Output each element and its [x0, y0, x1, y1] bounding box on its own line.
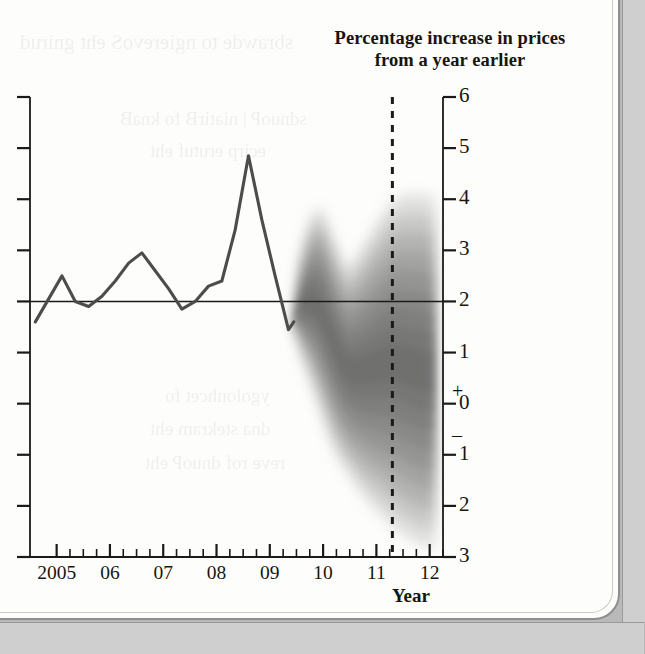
fan-chart-plot	[0, 0, 620, 620]
y-axis-tick-label: 0	[459, 390, 489, 415]
y-axis-tick-label: 1	[459, 441, 489, 466]
y-axis-plus-sign: +	[452, 381, 463, 401]
fan-chart-shading	[294, 194, 435, 549]
y-axis-tick-label: 2	[459, 492, 489, 517]
x-axis-title: Year	[392, 585, 430, 607]
page-right-gutter	[622, 0, 645, 622]
x-axis-tick-label: 12	[398, 562, 462, 584]
y-axis-tick-label: 2	[459, 287, 489, 312]
y-axis-tick-label: 6	[459, 83, 489, 108]
y-axis-tick-label: 4	[459, 185, 489, 210]
page-bottom-gutter	[0, 622, 644, 654]
y-axis-tick-label: 1	[459, 339, 489, 364]
inflation-history-line	[35, 156, 293, 330]
y-axis-tick-label: 3	[459, 543, 489, 568]
page-surface: sbrawde to ngierevoS eht gnirud sdnuoP |…	[0, 0, 620, 620]
y-axis-minus-sign: –	[452, 425, 462, 445]
y-axis-tick-label: 3	[459, 236, 489, 261]
y-axis-tick-label: 5	[459, 134, 489, 159]
